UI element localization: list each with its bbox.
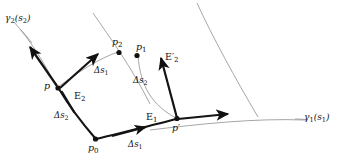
gamma2-close: ) [27, 13, 31, 23]
label-delta-s2-left: Δs2 [54, 111, 69, 121]
arc-p1-to-pprime [138, 56, 176, 118]
segment-E2-marker [62, 92, 74, 112]
label-point-p2: p2 [112, 37, 123, 48]
gamma2-open: (s [15, 13, 23, 23]
label-gamma2-curve: γ2(s2) [5, 14, 31, 25]
label-point-p1: p1 [136, 42, 147, 53]
point-marker-pprime [174, 116, 179, 121]
E2-sub: 2 [81, 94, 85, 103]
E1-sub: 1 [153, 115, 157, 124]
geometry-figure: γ2(s2) γ1(s1) p2 p1 p p0 p′ E2 E1 E′2 Δs… [0, 0, 337, 162]
edge-direction-arrow-bottom [112, 127, 146, 136]
pprime-mark: ′ [178, 122, 180, 133]
ds2-right-base: Δs [133, 75, 144, 85]
ds2-right-sub: 2 [144, 79, 148, 86]
ds2-left-base: Δs [54, 110, 65, 120]
label-delta-s1-bottom: Δs1 [128, 140, 143, 150]
vector-E1-at-pprime-arrow [178, 114, 228, 119]
figure-canvas [0, 0, 337, 162]
label-point-pprime: p′ [172, 123, 180, 133]
gamma1-close: ) [326, 112, 330, 122]
gamma2-curve-tail [20, 29, 32, 43]
ds1-top-sub: 1 [105, 69, 109, 76]
label-delta-s1-top: Δs1 [94, 66, 109, 76]
label-point-p0: p0 [88, 143, 99, 154]
E1-base: E [146, 111, 153, 122]
label-vector-E2-prime: E′2 [165, 52, 179, 63]
vector-E1-at-p-arrow [60, 54, 98, 88]
gamma1-open: (s [314, 112, 322, 122]
E2prime-sub: 2 [174, 55, 178, 64]
E2-base: E [74, 90, 81, 101]
p-base: p [44, 80, 50, 91]
ds1-bottom-sub: 1 [139, 143, 143, 150]
p2-sub: 2 [118, 40, 122, 49]
label-vector-E1: E1 [146, 112, 157, 123]
gamma2-curve-right [197, 3, 258, 117]
p1-sub: 1 [142, 45, 146, 54]
ds1-top-base: Δs [94, 65, 105, 75]
label-point-p: p [44, 81, 50, 91]
point-marker-p2 [116, 50, 121, 55]
label-vector-E2: E2 [74, 91, 85, 102]
point-marker-p [55, 85, 60, 90]
gamma2-curve-middle [93, 13, 150, 104]
point-marker-p1 [134, 53, 139, 58]
vector-E2prime-at-pprime-arrow [161, 58, 177, 118]
ds1-bottom-base: Δs [128, 139, 139, 149]
p0-sub: 0 [94, 146, 98, 155]
label-delta-s2-right: Δs2 [133, 76, 148, 86]
E2prime-base: E [165, 51, 172, 62]
label-gamma1-curve: γ1(s1) [304, 113, 330, 124]
ds2-left-sub: 2 [65, 114, 69, 121]
point-marker-p0 [93, 136, 98, 141]
